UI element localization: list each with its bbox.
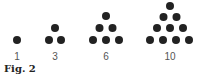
dot bbox=[45, 36, 53, 44]
dot bbox=[146, 36, 154, 44]
dot bbox=[173, 13, 181, 21]
dot bbox=[89, 36, 97, 44]
dot bbox=[185, 36, 193, 44]
dot bbox=[102, 36, 110, 44]
group-label: 3 bbox=[52, 51, 58, 62]
dot bbox=[96, 24, 104, 32]
dot bbox=[166, 2, 174, 10]
dot bbox=[102, 12, 110, 20]
dot bbox=[179, 24, 187, 32]
dot bbox=[115, 36, 123, 44]
dot bbox=[172, 36, 180, 44]
dot-group-3: 3 bbox=[45, 24, 65, 62]
dot bbox=[57, 36, 65, 44]
triangular-numbers-figure: 13610 Fig. 2 bbox=[0, 0, 204, 75]
figure-caption: Fig. 2 bbox=[4, 63, 36, 74]
dot bbox=[51, 24, 59, 32]
group-label: 10 bbox=[164, 51, 176, 62]
dot-groups: 13610 bbox=[13, 2, 193, 62]
dot bbox=[109, 24, 117, 32]
dot-group-6: 6 bbox=[89, 12, 123, 62]
dot-group-1: 1 bbox=[13, 36, 21, 62]
dot bbox=[166, 24, 174, 32]
group-label: 1 bbox=[14, 51, 20, 62]
dot bbox=[153, 24, 161, 32]
dot bbox=[13, 36, 21, 44]
dot bbox=[159, 36, 167, 44]
dot bbox=[160, 13, 168, 21]
dot-group-10: 10 bbox=[146, 2, 193, 62]
group-label: 6 bbox=[103, 51, 109, 62]
